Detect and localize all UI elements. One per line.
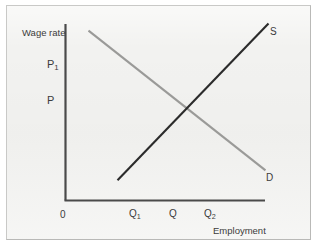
y-tick-label-p-main: P bbox=[47, 94, 54, 106]
x-tick-label-q-main: Q bbox=[169, 208, 177, 219]
x-tick-label-q2: Q2 bbox=[204, 209, 216, 220]
supply-curve-label: S bbox=[270, 27, 277, 37]
x-tick-label-q1: Q1 bbox=[129, 209, 141, 220]
x-tick-label-q1-subscript: 1 bbox=[137, 212, 141, 221]
x-tick-label-q1-main: Q bbox=[129, 208, 137, 219]
demand-curve bbox=[89, 31, 266, 171]
y-tick-label-p1: P1 bbox=[47, 59, 59, 72]
demand-curve-label: D bbox=[266, 173, 273, 183]
screenshot-root: Wage rate P1 P 0 Q1 Q Q2 Employment S D bbox=[0, 0, 318, 245]
y-tick-label-p1-subscript: 1 bbox=[54, 63, 58, 72]
x-axis-title: Employment bbox=[213, 226, 266, 236]
x-tick-label-q2-main: Q bbox=[204, 208, 212, 219]
y-tick-label-p: P bbox=[47, 95, 54, 106]
x-tick-label-q: Q bbox=[169, 209, 177, 219]
y-axis-title: Wage rate bbox=[22, 28, 65, 38]
supply-curve bbox=[118, 24, 269, 181]
origin-label: 0 bbox=[60, 210, 66, 220]
x-tick-label-q2-subscript: 2 bbox=[212, 212, 216, 221]
